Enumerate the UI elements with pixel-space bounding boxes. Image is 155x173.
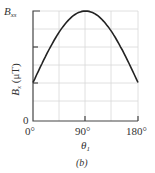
y-top-label: Bxs xyxy=(4,6,17,21)
x-tick-0: 0° xyxy=(25,126,35,137)
x-tick-180: 180° xyxy=(126,126,147,137)
axes xyxy=(33,11,138,121)
y-axis-label: Bx (μT) xyxy=(10,45,25,115)
figure-caption: (b) xyxy=(76,157,88,168)
x-tick-90: 90° xyxy=(75,126,90,137)
x-axis-label: θ1 xyxy=(81,140,90,155)
grid xyxy=(33,11,138,121)
